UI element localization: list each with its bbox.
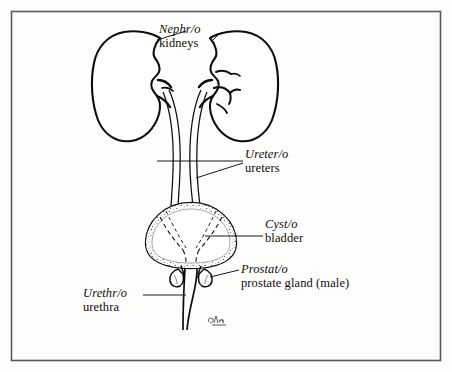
label-urethro-meaning: urethra — [83, 301, 127, 315]
artist-signature — [208, 316, 226, 325]
right-ureter — [190, 90, 207, 206]
label-nephro: Nephr/o kidneys — [159, 23, 201, 50]
label-urethro: Urethr/o urethra — [83, 287, 127, 314]
label-prostato-term: Prostat/o — [241, 263, 349, 277]
urinary-system-illustration — [0, 0, 452, 372]
label-nephro-term: Nephr/o — [159, 23, 201, 37]
leader-right-ureter — [196, 163, 243, 178]
urethra — [183, 268, 197, 330]
label-cysto: Cyst/o bladder — [265, 218, 303, 245]
label-prostato-meaning: prostate gland (male) — [241, 277, 349, 291]
right-kidney — [199, 31, 278, 141]
label-prostato: Prostat/o prostate gland (male) — [241, 263, 349, 290]
label-uretero: Ureter/o ureters — [245, 148, 288, 175]
left-ureter — [163, 90, 180, 206]
label-uretero-term: Ureter/o — [245, 148, 288, 162]
label-cysto-term: Cyst/o — [265, 218, 303, 232]
leader-prostate — [210, 270, 239, 277]
prostate-gland — [170, 269, 212, 287]
label-uretero-meaning: ureters — [245, 162, 288, 176]
label-cysto-meaning: bladder — [265, 232, 303, 246]
figure-root: Nephr/o kidneys Ureter/o ureters Cyst/o … — [0, 0, 452, 372]
label-urethro-term: Urethr/o — [83, 287, 127, 301]
label-nephro-meaning: kidneys — [159, 37, 201, 51]
bladder — [146, 203, 236, 278]
